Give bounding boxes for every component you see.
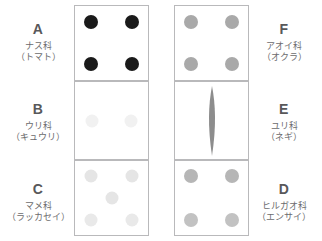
label-block-a: A ナス科 （トマト）: [2, 14, 74, 70]
label-family-e: ユリ科: [271, 121, 298, 132]
label-family-b: ウリ科: [25, 121, 52, 132]
label-family-a: ナス科: [25, 41, 52, 52]
label-example-f: （オクラ）: [262, 52, 307, 63]
specimen-cell-a: [74, 5, 149, 81]
specimen-dot: [125, 169, 138, 182]
label-letter-a: A: [33, 21, 44, 39]
label-block-d: D ヒルガオ科 （エンサイ）: [248, 174, 320, 230]
label-letter-e: E: [279, 101, 289, 119]
specimen-dot: [125, 15, 139, 29]
label-block-e: E ユリ科 （ネギ）: [248, 94, 320, 150]
specimen-cell-c: [74, 160, 149, 236]
specimen-dot: [85, 114, 98, 127]
specimen-dot: [125, 57, 139, 71]
label-example-e: （ネギ）: [266, 132, 302, 143]
specimen-dot: [184, 57, 198, 71]
specimen-dot: [84, 15, 98, 29]
label-family-d: ヒルガオ科: [262, 201, 307, 212]
specimen-grid-figure: A ナス科 （トマト） B ウリ科 （キュウリ） C マメ科 （ラッカセイ） F…: [0, 0, 322, 241]
label-letter-f: F: [279, 21, 288, 39]
specimen-dot: [184, 15, 198, 29]
label-block-f: F アオイ科 （オクラ）: [248, 14, 320, 70]
specimen-dot: [225, 15, 239, 29]
label-block-b: B ウリ科 （キュウリ）: [2, 94, 74, 150]
blade-shape: [204, 86, 220, 156]
label-letter-c: C: [33, 181, 44, 199]
label-example-b: （キュウリ）: [11, 132, 65, 143]
specimen-dot: [85, 214, 98, 227]
label-family-c: マメ科: [25, 201, 52, 212]
label-example-c: （ラッカセイ）: [7, 212, 70, 223]
label-example-a: （トマト）: [16, 52, 61, 63]
label-example-d: （エンサイ）: [257, 212, 311, 223]
specimen-cell-f: [174, 5, 249, 81]
specimen-cell-e: [174, 81, 249, 160]
label-family-f: アオイ科: [266, 41, 302, 52]
specimen-dot: [225, 57, 239, 71]
specimen-cell-b: [74, 81, 149, 160]
label-letter-b: B: [33, 101, 44, 119]
specimen-dot: [125, 114, 138, 127]
specimen-dot: [84, 57, 98, 71]
specimen-dot: [105, 192, 118, 205]
label-block-c: C マメ科 （ラッカセイ）: [2, 174, 74, 230]
specimen-cell-d: [174, 160, 249, 236]
label-letter-d: D: [279, 181, 290, 199]
specimen-dot: [225, 213, 239, 227]
specimen-dot: [85, 169, 98, 182]
specimen-dot: [184, 169, 198, 183]
specimen-dot: [184, 213, 198, 227]
specimen-dot: [225, 169, 239, 183]
specimen-dot: [125, 214, 138, 227]
